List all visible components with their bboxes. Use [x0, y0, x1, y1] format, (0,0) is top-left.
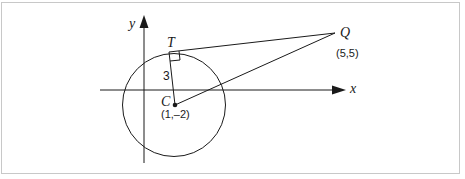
tangent-TQ	[169, 33, 335, 52]
point-C-label: C	[161, 95, 170, 109]
point-Q-label: Q	[340, 26, 350, 40]
point-C-coords: (1,–2)	[161, 109, 190, 120]
x-axis-label: x	[350, 82, 356, 96]
radius-label: 3	[163, 70, 170, 82]
diagram-canvas	[0, 0, 465, 179]
point-T-label: T	[167, 36, 175, 50]
center-point	[173, 103, 178, 108]
right-angle-marker	[170, 51, 180, 61]
y-axis-label: y	[129, 17, 135, 31]
x-axis-arrowhead	[332, 86, 346, 95]
point-Q-coords: (5,5)	[336, 48, 359, 59]
line-CQ	[175, 33, 335, 105]
y-axis-arrowhead	[140, 15, 149, 28]
